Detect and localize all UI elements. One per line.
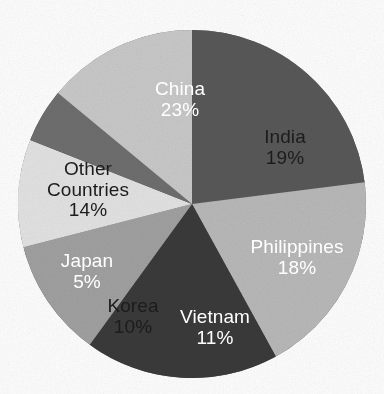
pie-chart-figure: China 23% India 19% Philippines 18% Viet… (0, 0, 384, 394)
pie-slices-group (18, 30, 366, 378)
pie-slice-china (192, 30, 365, 204)
pie-chart-svg (0, 0, 384, 394)
